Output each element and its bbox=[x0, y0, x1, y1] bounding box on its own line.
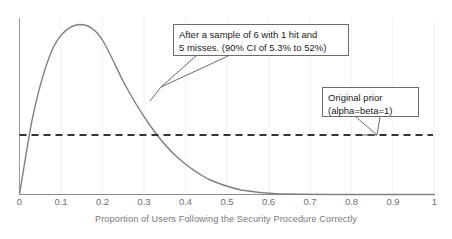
x-axis-caption: Proportion of Users Following the Securi… bbox=[0, 214, 452, 224]
x-tick-2: 0.2 bbox=[88, 196, 118, 207]
posterior-callout-leader bbox=[150, 56, 228, 101]
x-tick-3: 0.3 bbox=[129, 196, 159, 207]
x-tick-1: 0.1 bbox=[46, 196, 76, 207]
prior-callout-line-2: (alpha=beta=1) bbox=[328, 104, 413, 117]
posterior-callout-line-2: 5 misses. (90% CI of 5.3% to 52%) bbox=[179, 41, 343, 54]
beta-distribution-chart: After a sample of 6 with 1 hit and 5 mis… bbox=[0, 0, 452, 239]
x-tick-4: 0.4 bbox=[171, 196, 201, 207]
x-tick-7: 0.7 bbox=[295, 196, 325, 207]
x-tick-5: 0.5 bbox=[212, 196, 242, 207]
x-tick-6: 0.6 bbox=[254, 196, 284, 207]
posterior-callout-line-1: After a sample of 6 with 1 hit and bbox=[179, 28, 343, 41]
posterior-callout-box: After a sample of 6 with 1 hit and 5 mis… bbox=[173, 24, 349, 56]
prior-callout-line-1: Original prior bbox=[328, 91, 413, 104]
x-tick-8: 0.8 bbox=[337, 196, 367, 207]
x-tick-0: 0 bbox=[5, 196, 35, 207]
prior-callout-box: Original prior (alpha=beta=1) bbox=[322, 87, 419, 117]
prior-callout-leader bbox=[356, 117, 380, 135]
x-axis-tick-labels: 0 0.1 0.2 0.3 0.4 0.5 0.6 0.7 0.8 0.9 1 bbox=[0, 196, 452, 210]
x-tick-10: 1 bbox=[420, 196, 450, 207]
x-tick-9: 0.9 bbox=[378, 196, 408, 207]
